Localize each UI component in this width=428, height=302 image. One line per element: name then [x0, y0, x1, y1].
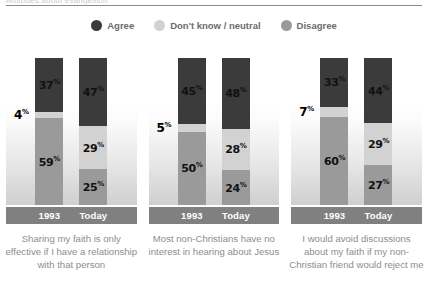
stacked-bar-1993[interactable]: 33%60% [320, 58, 348, 205]
legend-circle-swatch [281, 20, 292, 31]
group-question-caption: I would avoid discussions about my faith… [289, 232, 424, 271]
bar-segment-disagree[interactable]: 25% [79, 169, 107, 205]
group-question-caption: Most non-Christians have no interest in … [147, 232, 282, 258]
chart-group-2: 45%50%48%28%24%5%1993TodayMost non-Chris… [143, 40, 286, 302]
segment-value-number: 50 [181, 162, 196, 175]
segment-value-label: 29% [368, 138, 389, 150]
segment-value-number: 29 [83, 141, 98, 154]
stacked-bar-today[interactable]: 47%29%25% [79, 58, 107, 205]
bar-segment-neutral[interactable]: 29% [364, 123, 392, 166]
group-plot-area: 33%60%44%29%27%7% [285, 58, 428, 205]
percent-sign: % [196, 84, 203, 92]
percent-sign: % [22, 108, 29, 116]
segment-value-label: 37% [39, 79, 60, 91]
legend-circle-swatch [154, 20, 165, 31]
segment-value-label: 47% [83, 86, 104, 98]
stacked-bar-1993[interactable]: 37%59% [35, 58, 63, 205]
bar-segment-agree[interactable]: 33% [320, 58, 348, 107]
segment-value-number: 29 [368, 138, 383, 151]
percent-sign: % [53, 78, 60, 86]
x-axis-tick-1993: 1993 [35, 210, 63, 221]
legend-item-label: Don't know / neutral [170, 20, 260, 31]
segment-value-number: 47 [83, 86, 98, 99]
percent-sign: % [97, 85, 104, 93]
segment-value-label: 50% [181, 162, 202, 174]
stacked-bar-1993[interactable]: 45%50% [178, 58, 206, 205]
segment-value-number: 45 [181, 85, 196, 98]
percent-sign: % [240, 181, 247, 189]
percent-sign: % [97, 141, 104, 149]
segment-value-label: 28% [225, 143, 246, 155]
percent-sign: % [338, 154, 345, 162]
segment-callout-label-neutral: 7% [299, 106, 314, 118]
segment-value-number: 37 [39, 79, 54, 92]
segment-value-number: 33 [324, 76, 339, 89]
bar-segment-disagree[interactable]: 24% [222, 170, 250, 205]
legend-item-label: Agree [107, 20, 134, 31]
bar-segment-agree[interactable]: 47% [79, 58, 107, 126]
segment-value-label: 25% [83, 181, 104, 193]
bar-segment-neutral[interactable] [320, 107, 348, 117]
group-plot-area: 37%59%47%29%25%4% [0, 58, 143, 205]
stacked-bars: 37%59%47%29%25% [0, 58, 143, 205]
percent-sign: % [338, 75, 345, 83]
legend-item-disagree[interactable]: Disagree [281, 20, 337, 31]
chart-group-3: 33%60%44%29%27%7%1993TodayI would avoid … [285, 40, 428, 302]
percent-sign: % [382, 178, 389, 186]
bar-segment-agree[interactable]: 48% [222, 58, 250, 129]
stacked-bar-today[interactable]: 44%29%27% [364, 58, 392, 205]
segment-value-label: 60% [324, 155, 345, 167]
bar-segment-neutral[interactable]: 29% [79, 126, 107, 168]
bar-segment-disagree[interactable]: 50% [178, 132, 206, 206]
x-axis-label-band: 1993Today [6, 207, 137, 224]
chart-groups-row: 37%59%47%29%25%4%1993TodaySharing my fai… [0, 40, 428, 302]
x-axis-tick-today: Today [222, 210, 250, 221]
segment-value-label: 27% [368, 179, 389, 191]
segment-value-number: 48 [225, 87, 240, 100]
segment-callout-label-neutral: 4% [14, 109, 29, 121]
legend-item-label: Disagree [297, 20, 337, 31]
x-axis-tick-today: Today [364, 210, 392, 221]
x-axis-tick-today: Today [79, 210, 107, 221]
bar-segment-disagree[interactable]: 27% [364, 165, 392, 205]
percent-sign: % [240, 86, 247, 94]
segment-value-number: 7 [299, 105, 307, 119]
stacked-bars: 33%60%44%29%27% [285, 58, 428, 205]
segment-value-label: 48% [225, 87, 246, 99]
percent-sign: % [382, 84, 389, 92]
group-question-caption: Sharing my faith is only effective if I … [4, 232, 139, 271]
segment-value-label: 44% [368, 85, 389, 97]
bar-segment-disagree[interactable]: 59% [35, 118, 63, 205]
segment-value-number: 60 [324, 155, 339, 168]
bar-segment-agree[interactable]: 37% [35, 58, 63, 112]
x-axis-label-band: 1993Today [291, 207, 422, 224]
bar-segment-neutral[interactable]: 28% [222, 129, 250, 170]
percent-sign: % [240, 142, 247, 150]
legend-circle-swatch [91, 20, 102, 31]
segment-value-number: 24 [225, 181, 240, 194]
segment-value-number: 5 [157, 121, 165, 135]
segment-value-label: 29% [83, 142, 104, 154]
percent-sign: % [196, 161, 203, 169]
segment-value-label: 59% [39, 156, 60, 168]
stacked-bar-today[interactable]: 48%28%24% [222, 58, 250, 205]
percent-sign: % [97, 180, 104, 188]
bar-segment-neutral[interactable] [178, 124, 206, 131]
percent-sign: % [53, 155, 60, 163]
segment-value-number: 25 [83, 181, 98, 194]
chart-legend: AgreeDon't know / neutralDisagree [0, 17, 428, 33]
bar-segment-agree[interactable]: 45% [178, 58, 206, 124]
legend-item-agree[interactable]: Agree [91, 20, 134, 31]
bar-segment-disagree[interactable]: 60% [320, 117, 348, 205]
segment-value-label: 45% [181, 85, 202, 97]
clipped-title-strip: Attitudes about evangelism [6, 0, 422, 4]
legend-item-don-t-know-neutral[interactable]: Don't know / neutral [154, 20, 260, 31]
chart-group-1: 37%59%47%29%25%4%1993TodaySharing my fai… [0, 40, 143, 302]
segment-callout-label-neutral: 5% [157, 122, 172, 134]
segment-value-label: 24% [225, 182, 246, 194]
header-divider [6, 5, 422, 6]
bar-segment-agree[interactable]: 44% [364, 58, 392, 123]
segment-value-number: 44 [368, 84, 383, 97]
x-axis-label-band: 1993Today [149, 207, 280, 224]
percent-sign: % [382, 137, 389, 145]
